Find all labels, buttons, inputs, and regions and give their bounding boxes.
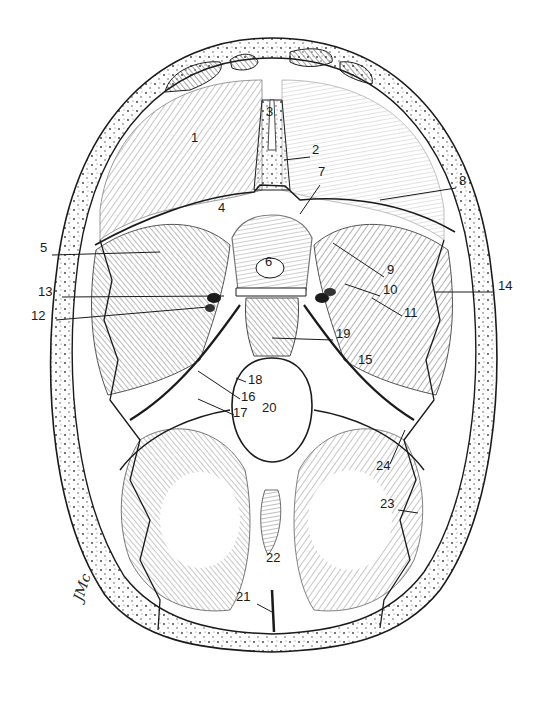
- label-8: 8: [459, 174, 466, 187]
- label-22: 22: [266, 551, 280, 564]
- label-10: 10: [383, 283, 397, 296]
- label-12: 12: [31, 309, 45, 322]
- label-18: 18: [248, 373, 262, 386]
- label-7: 7: [318, 165, 325, 178]
- label-21: 21: [236, 590, 250, 603]
- skull-base-illustration: 1 2 3 4 5 6 7 8 9 10 11 12 13 14 15 16 1…: [0, 0, 544, 709]
- label-13: 13: [38, 285, 52, 298]
- label-3: 3: [266, 105, 273, 118]
- label-6: 6: [265, 255, 272, 268]
- label-5: 5: [40, 241, 47, 254]
- clivus: [245, 298, 298, 356]
- label-17: 17: [233, 406, 247, 419]
- label-19: 19: [336, 327, 350, 340]
- label-11: 11: [404, 306, 418, 319]
- label-9: 9: [387, 263, 394, 276]
- label-14: 14: [498, 279, 512, 292]
- sella-turcica: [232, 215, 312, 290]
- label-1: 1: [191, 131, 198, 144]
- label-15: 15: [358, 353, 372, 366]
- label-4: 4: [218, 201, 225, 214]
- label-20: 20: [262, 401, 276, 414]
- label-23: 23: [380, 497, 394, 510]
- label-24: 24: [376, 459, 390, 472]
- label-2: 2: [312, 143, 319, 156]
- label-16: 16: [241, 390, 255, 403]
